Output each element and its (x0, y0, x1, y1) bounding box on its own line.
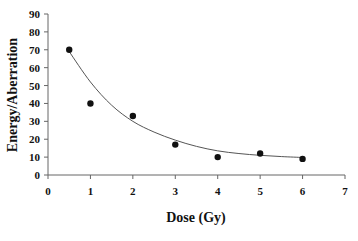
y-tick-label: 50 (29, 80, 41, 92)
data-point (215, 154, 221, 160)
x-tick-label: 7 (342, 185, 348, 197)
y-tick-label: 0 (35, 169, 41, 181)
y-tick-label: 60 (29, 62, 41, 74)
x-tick-label: 3 (173, 185, 179, 197)
x-tick-label: 4 (215, 185, 221, 197)
y-tick-label: 10 (29, 151, 41, 163)
y-tick-label: 20 (29, 133, 41, 145)
data-point (130, 113, 136, 119)
y-axis-ticks: 0102030405060708090 (29, 8, 48, 181)
y-axis-title: Energy/Aberration (5, 38, 20, 153)
data-point (299, 156, 305, 162)
data-point (172, 141, 178, 147)
x-tick-label: 2 (130, 185, 136, 197)
fit-curve (69, 52, 302, 158)
data-points (66, 47, 306, 163)
y-tick-label: 30 (29, 115, 41, 127)
y-tick-label: 70 (29, 44, 41, 56)
x-axis-title: Dose (Gy) (166, 210, 226, 226)
y-tick-label: 40 (29, 97, 41, 109)
x-tick-label: 5 (257, 185, 263, 197)
scatter-chart: 0102030405060708090 01234567 Dose (Gy) E… (0, 0, 358, 241)
x-axis-ticks: 01234567 (45, 175, 348, 197)
data-point (87, 100, 93, 106)
data-point (257, 150, 263, 156)
data-point (66, 47, 72, 53)
x-tick-label: 0 (45, 185, 51, 197)
x-tick-label: 1 (88, 185, 94, 197)
axes (48, 14, 345, 175)
x-tick-label: 6 (300, 185, 306, 197)
y-tick-label: 90 (29, 8, 41, 20)
y-tick-label: 80 (29, 26, 41, 38)
